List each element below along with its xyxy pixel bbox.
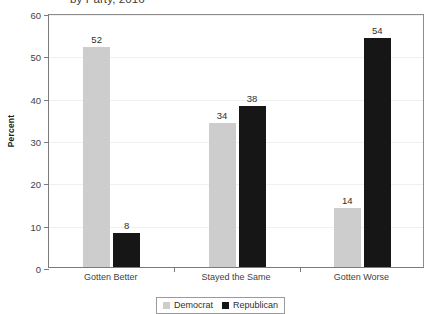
y-axis-tick <box>44 227 49 228</box>
bar-rep: 38 <box>239 106 266 267</box>
bar-rep: 54 <box>364 38 391 267</box>
x-axis-tick <box>174 267 175 272</box>
y-axis-tick-label: 10 <box>30 221 41 232</box>
x-axis-category-label: Gotten Better <box>84 272 138 282</box>
legend-swatch-democrat-icon <box>163 302 170 309</box>
y-axis-tick <box>44 15 49 16</box>
bar-value-label: 8 <box>124 220 129 231</box>
legend-item-republican: Republican <box>222 300 278 310</box>
bar-value-label: 52 <box>91 34 102 45</box>
plot-area: 010203040506052834381454 <box>48 14 424 268</box>
y-axis-tick <box>44 142 49 143</box>
y-axis-tick-label: 0 <box>36 264 41 275</box>
legend-label-republican: Republican <box>233 300 278 310</box>
chart-legend: Democrat Republican <box>156 297 285 314</box>
y-axis-tick-label: 20 <box>30 179 41 190</box>
x-axis-tick <box>300 267 301 272</box>
chart-title: by Party, 2016 <box>70 0 145 5</box>
bar-value-label: 34 <box>217 110 228 121</box>
y-axis-title: Percent <box>6 101 16 161</box>
bar-value-label: 14 <box>342 195 353 206</box>
bar-chart-figure: by Party, 2016 Percent 01020304050605283… <box>0 0 433 314</box>
x-axis-category-label: Gotten Worse <box>334 272 389 282</box>
legend-label-democrat: Democrat <box>174 300 213 310</box>
y-axis-tick-label: 50 <box>30 52 41 63</box>
y-axis-tick <box>44 184 49 185</box>
legend-swatch-republican-icon <box>222 302 229 309</box>
bar-value-label: 38 <box>247 93 258 104</box>
bar-value-label: 54 <box>372 25 383 36</box>
y-axis-tick-label: 40 <box>30 94 41 105</box>
bar-rep: 8 <box>113 233 140 267</box>
y-axis-tick-label: 60 <box>30 10 41 21</box>
bar-dem: 34 <box>209 123 236 267</box>
bar-dem: 52 <box>83 47 110 267</box>
y-axis-tick-label: 30 <box>30 137 41 148</box>
gridline <box>49 15 423 16</box>
legend-item-democrat: Democrat <box>163 300 213 310</box>
bar-dem: 14 <box>334 208 361 267</box>
y-axis-tick <box>44 269 49 270</box>
y-axis-tick <box>44 100 49 101</box>
x-axis-category-label: Stayed the Same <box>201 272 270 282</box>
y-axis-tick <box>44 57 49 58</box>
